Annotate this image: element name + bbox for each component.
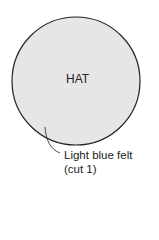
material-label: Light blue felt	[64, 149, 132, 162]
cut-count-label: (cut 1)	[64, 163, 97, 176]
hat-title: HAT	[66, 73, 89, 86]
